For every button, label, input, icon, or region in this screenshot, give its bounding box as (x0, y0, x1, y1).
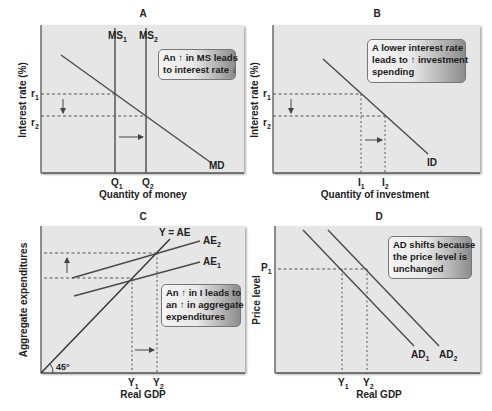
panel-c-callout: An ↑ in I leads to an ↑ in aggregate exp… (161, 284, 241, 327)
panel-c-x-title: Real GDP (120, 389, 166, 400)
panel-b-y-title: Interest rate (%) (249, 62, 260, 138)
callout-line: A lower interest rate (372, 42, 461, 54)
callout-line: leads to ↑ investment (372, 54, 461, 66)
callout-line: An ↑ in MS leads (163, 52, 231, 64)
y-equals-ae-label: Y = AE (159, 227, 191, 238)
r2-tick: r2 (263, 117, 271, 130)
id-label: ID (427, 157, 437, 168)
panel-d-y-title: Price level (251, 275, 262, 325)
panel-a-callout: An ↑ in MS leads to interest rate ↓ (158, 49, 236, 80)
callout-line: AD shifts because (393, 239, 467, 251)
callout-line: unchanged (393, 263, 467, 275)
panel-a-plot-area (41, 25, 244, 173)
r1-tick: r1 (31, 88, 39, 101)
p1-tick: P1 (261, 262, 272, 275)
panel-d-x-title: Real GDP (356, 389, 402, 400)
panel-b: B ID r1 r2 I1 I2 Quantity of investment … (249, 8, 480, 200)
y1-tick: Y1 (338, 377, 349, 390)
panel-b-title: B (373, 8, 380, 19)
r1-tick: r1 (263, 88, 271, 101)
angle-45-label: 45° (56, 362, 70, 372)
callout-line: spending (372, 66, 461, 78)
panel-c-y-title: Aggregate expenditures (18, 242, 29, 357)
panel-a-y-title: Interest rate (%) (17, 62, 28, 138)
r2-tick: r2 (31, 117, 39, 130)
panel-b-callout: A lower interest rate leads to ↑ investm… (367, 39, 466, 83)
callout-line: expenditures (166, 311, 236, 323)
panel-a: A MS1 MS2 MD r1 r2 Q1 Q2 Quantity of mon… (17, 8, 244, 200)
callout-line: the price level is (393, 251, 467, 263)
callout-line: An ↑ in I leads to (166, 287, 236, 299)
panel-b-x-title: Quantity of investment (321, 189, 430, 200)
panel-d-title: D (375, 211, 382, 222)
callout-line: to interest rate ↓ (163, 64, 231, 76)
panel-d-callout: AD shifts because the price level is unc… (388, 236, 472, 279)
panel-a-x-title: Quantity of money (99, 189, 187, 200)
md-label: MD (209, 160, 225, 171)
callout-line: an ↑ in aggregate (166, 299, 236, 311)
panel-c-title: C (139, 211, 146, 222)
panel-a-title: A (139, 8, 146, 19)
